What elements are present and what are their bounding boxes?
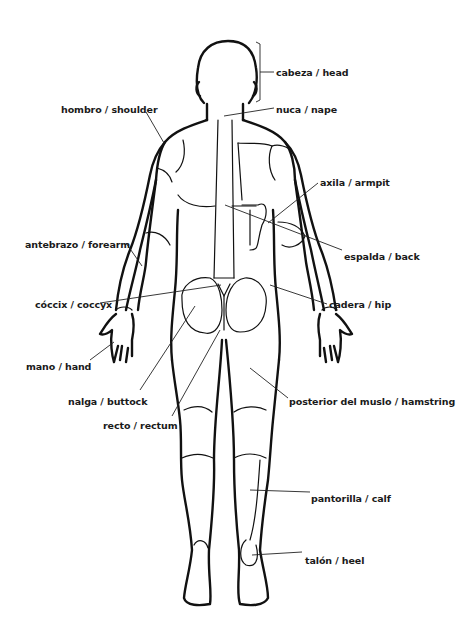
body-diagram: cabeza / head hombro / shoulder nuca / n… — [0, 0, 458, 633]
label-head: cabeza / head — [276, 67, 348, 78]
label-rectum: recto / rectum — [103, 420, 177, 431]
label-heel: talón / heel — [305, 555, 364, 566]
body-back-view-illustration — [0, 0, 458, 633]
label-hamstring: posterior del muslo / hamstring — [289, 396, 455, 407]
label-armpit: axila / armpit — [320, 177, 390, 188]
label-forearm: antebrazo / forearm — [25, 239, 130, 250]
label-nape: nuca / nape — [276, 104, 337, 115]
label-shoulder: hombro / shoulder — [61, 104, 157, 115]
label-buttock: nalga / buttock — [68, 396, 147, 407]
label-hip: cadera / hip — [329, 299, 391, 310]
label-hand: mano / hand — [26, 361, 91, 372]
label-calf: pantorilla / calf — [311, 493, 391, 504]
label-coccyx: cóccix / coccyx — [35, 299, 112, 310]
label-back: espalda / back — [344, 251, 420, 262]
